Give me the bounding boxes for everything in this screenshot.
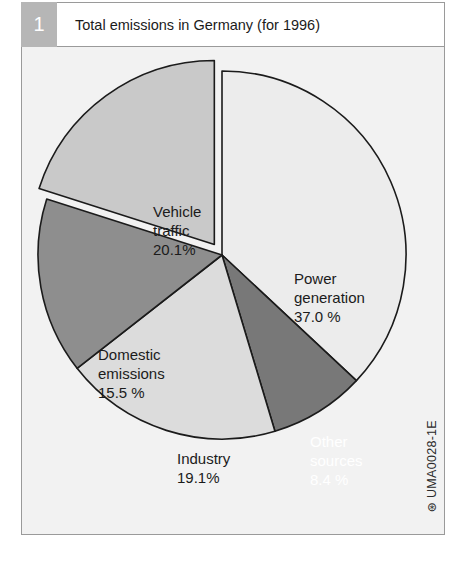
pie-label-other-sources: Other sources 8.4 % — [310, 432, 363, 489]
pie-label-power-generation-name-line2: generation — [294, 288, 365, 307]
pie-label-other-sources-name-line1: Other — [310, 432, 363, 451]
pie-label-domestic-emissions: Domestic emissions 15.5 % — [98, 345, 165, 402]
pie-label-vehicle-traffic-name-line2: traffic — [153, 221, 201, 240]
pie-label-power-generation: Power generation 37.0 % — [294, 269, 365, 326]
pie-label-other-sources-name-line2: sources — [310, 451, 363, 470]
pie-label-vehicle-traffic-name-line1: Vehicle — [153, 202, 201, 221]
pie-label-industry-name-line1: Industry — [177, 449, 230, 468]
pie-label-domestic-emissions-name-line2: emissions — [98, 364, 165, 383]
pie-label-industry-value: 19.1% — [177, 468, 230, 487]
pie-label-vehicle-traffic: Vehicle traffic 20.1% — [153, 202, 201, 259]
pie-label-vehicle-traffic-value: 20.1% — [153, 240, 201, 259]
pie-label-domestic-emissions-value: 15.5 % — [98, 383, 165, 402]
pie-label-industry: Industry 19.1% — [177, 449, 230, 487]
page-title: Total emissions in Germany (for 1996) — [75, 17, 320, 33]
pie-label-other-sources-value: 8.4 % — [310, 470, 363, 489]
pie-label-domestic-emissions-name-line1: Domestic — [98, 345, 165, 364]
registration-mark-icon: ⊛ — [427, 501, 437, 513]
pie-label-power-generation-name-line1: Power — [294, 269, 365, 288]
figure-number-badge: 1 — [21, 2, 57, 47]
figure-panel: 1 Total emissions in Germany (for 1996) … — [21, 2, 445, 535]
pie-label-power-generation-value: 37.0 % — [294, 307, 365, 326]
chart-body: Power generation 37.0 % Vehicle traffic … — [21, 47, 445, 535]
credit-text: UMA0028-1E — [425, 420, 439, 498]
pie-chart: Power generation 37.0 % Vehicle traffic … — [22, 47, 446, 535]
pie-chart-svg — [34, 59, 410, 449]
figure-title-box: Total emissions in Germany (for 1996) — [57, 2, 445, 47]
credit-strip: ⊛ UMA0028-1E — [420, 363, 444, 513]
figure-header: 1 Total emissions in Germany (for 1996) — [21, 2, 445, 47]
